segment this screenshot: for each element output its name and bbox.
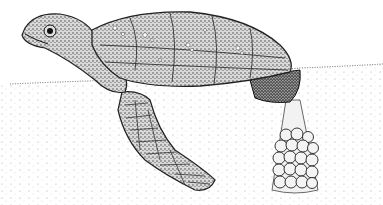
turtle-illustration bbox=[0, 0, 383, 205]
turtle-shell bbox=[92, 12, 291, 87]
